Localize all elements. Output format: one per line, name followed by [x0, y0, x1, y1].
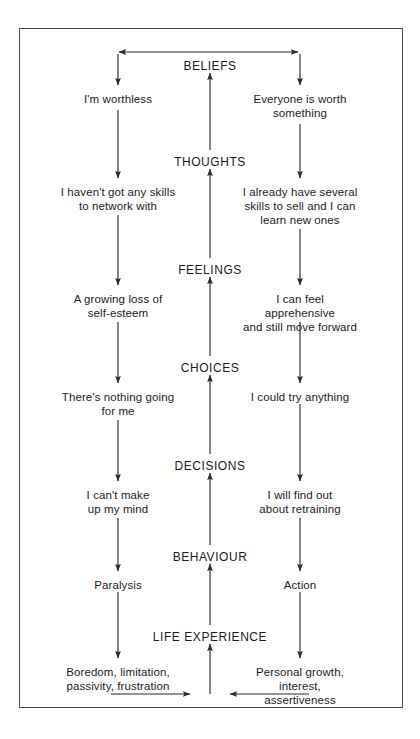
node-right-life-experience: Personal growth, interest, assertiveness	[240, 665, 360, 707]
node-left-beliefs: I'm worthless	[84, 92, 152, 106]
stage-label-feelings: FEELINGS	[178, 263, 242, 277]
node-right-thoughts: I already have several skills to sell an…	[243, 185, 358, 227]
stage-label-choices: CHOICES	[181, 361, 240, 375]
stage-label-life-experience: LIFE EXPERIENCE	[153, 630, 267, 644]
node-left-life-experience: Boredom, limitation, passivity, frustrat…	[66, 665, 170, 693]
node-right-feelings: I can feel apprehensive and still move f…	[240, 292, 360, 334]
node-left-choices: There's nothing going for me	[62, 390, 174, 418]
node-right-behaviour: Action	[284, 578, 317, 592]
node-left-decisions: I can't make up my mind	[87, 488, 150, 516]
node-right-beliefs: Everyone is worth something	[253, 92, 346, 120]
node-left-thoughts: I haven't got any skills to network with	[61, 185, 176, 213]
stage-label-decisions: DECISIONS	[175, 459, 246, 473]
diagram-page: BELIEFS THOUGHTS FEELINGS CHOICES DECISI…	[0, 0, 420, 739]
node-right-decisions: I will find out about retraining	[259, 488, 341, 516]
stage-label-behaviour: BEHAVIOUR	[173, 550, 248, 564]
node-left-feelings: A growing loss of self-esteem	[74, 292, 163, 320]
node-left-behaviour: Paralysis	[94, 578, 142, 592]
stage-label-beliefs: BELIEFS	[183, 59, 236, 73]
node-right-choices: I could try anything	[251, 390, 350, 404]
stage-label-thoughts: THOUGHTS	[174, 155, 246, 169]
